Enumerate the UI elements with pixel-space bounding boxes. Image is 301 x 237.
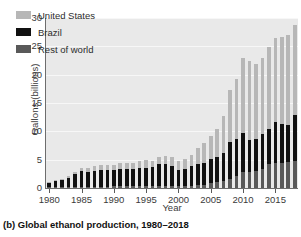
bar-segment-united-states: [286, 35, 290, 125]
bar-segment-brazil: [157, 164, 161, 186]
bar-segment-united-states: [144, 160, 148, 168]
bar-segment-brazil: [222, 153, 226, 181]
bar-segment-brazil: [228, 142, 232, 179]
bar-2018: [293, 25, 297, 188]
bar-segment-rest-of-world: [190, 186, 194, 188]
bar-segment-brazil: [170, 166, 174, 186]
bar-segment-brazil: [138, 168, 142, 186]
bar-segment-rest-of-world: [202, 185, 206, 188]
bar-segment-rest-of-world: [254, 171, 258, 188]
bar-segment-rest-of-world: [196, 185, 200, 188]
bar-segment-brazil: [190, 166, 194, 185]
bar-segment-rest-of-world: [131, 186, 135, 188]
bar-segment-united-states: [196, 148, 200, 164]
bar-segment-brazil: [183, 169, 187, 186]
x-tick-mark: [146, 189, 147, 193]
bar-2008: [228, 90, 232, 188]
bar-1984: [73, 172, 77, 188]
bar-1989: [106, 165, 110, 188]
bar-segment-united-states: [248, 61, 252, 140]
bar-segment-rest-of-world: [261, 169, 265, 188]
bar-segment-united-states: [261, 58, 265, 134]
bar-1995: [144, 160, 148, 188]
bar-segment-rest-of-world: [86, 187, 90, 188]
chart-area: Gallons (billions) 051015202530 19801985…: [0, 2, 301, 205]
bar-2014: [267, 47, 271, 188]
bar-2011: [248, 61, 252, 188]
bar-segment-rest-of-world: [241, 172, 245, 188]
bar-1997: [157, 157, 161, 188]
legend-item-brazil: Brazil: [16, 25, 156, 39]
bar-segment-rest-of-world: [144, 186, 148, 188]
bar-segment-brazil: [164, 164, 168, 186]
bar-segment-brazil: [293, 115, 297, 161]
x-tick-mark: [49, 189, 50, 193]
bar-segment-brazil: [286, 125, 290, 162]
x-tick-mark: [275, 189, 276, 193]
bar-segment-united-states: [280, 37, 284, 124]
bar-segment-united-states: [157, 157, 161, 164]
bar-segment-united-states: [235, 79, 239, 139]
bar-2005: [209, 136, 213, 188]
bar-2013: [261, 58, 265, 188]
legend-swatch-united-states: [16, 11, 31, 19]
x-tick-mark: [211, 189, 212, 193]
bar-segment-brazil: [118, 169, 122, 187]
bar-segment-rest-of-world: [112, 186, 116, 188]
bar-segment-rest-of-world: [80, 187, 84, 188]
bar-segment-rest-of-world: [170, 186, 174, 188]
legend-item-united-states: United States: [16, 8, 156, 22]
bar-2016: [280, 37, 284, 188]
bar-1996: [151, 161, 155, 188]
bar-segment-rest-of-world: [164, 186, 168, 188]
bar-segment-rest-of-world: [280, 163, 284, 189]
bar-segment-rest-of-world: [286, 162, 290, 188]
bar-segment-rest-of-world: [274, 163, 278, 189]
bar-segment-brazil: [202, 163, 206, 185]
bar-segment-united-states: [267, 47, 271, 128]
bar-1988: [99, 165, 103, 188]
bar-segment-brazil: [99, 170, 103, 187]
bar-2009: [235, 79, 239, 188]
x-axis-title: Year: [46, 202, 298, 213]
bar-1999: [170, 157, 174, 188]
bar-segment-united-states: [190, 155, 194, 167]
legend-label-rest-of-world: Rest of world: [38, 44, 93, 55]
bar-segment-rest-of-world: [157, 186, 161, 188]
bar-segment-brazil: [241, 133, 245, 172]
bar-1990: [112, 165, 116, 188]
legend-item-rest-of-world: Rest of world: [16, 42, 156, 56]
bar-segment-brazil: [267, 129, 271, 164]
bar-2010: [241, 58, 245, 188]
bar-segment-brazil: [280, 124, 284, 163]
bar-segment-brazil: [93, 171, 97, 187]
bar-segment-brazil: [274, 122, 278, 162]
bar-segment-brazil: [106, 170, 110, 187]
bar-segment-united-states: [254, 64, 258, 139]
bar-segment-rest-of-world: [67, 187, 71, 188]
bar-segment-brazil: [80, 171, 84, 187]
bar-2001: [183, 159, 187, 188]
bar-1986: [86, 168, 90, 188]
bar-segment-rest-of-world: [151, 186, 155, 188]
bar-segment-rest-of-world: [118, 186, 122, 188]
bar-segment-united-states: [241, 58, 245, 133]
y-tick-label: 10: [24, 127, 42, 137]
bar-segment-united-states: [202, 143, 206, 162]
bar-segment-rest-of-world: [209, 183, 213, 188]
bar-2006: [215, 129, 219, 188]
bar-1998: [164, 156, 168, 188]
bar-1980: [47, 182, 51, 188]
bar-segment-brazil: [67, 178, 71, 188]
y-tick-label: 5: [24, 155, 42, 165]
bar-segment-rest-of-world: [93, 187, 97, 188]
bar-1985: [80, 168, 84, 188]
bar-2007: [222, 116, 226, 188]
x-tick-mark: [82, 189, 83, 193]
legend-label-brazil: Brazil: [38, 27, 62, 38]
x-tick-mark: [114, 189, 115, 193]
bar-segment-united-states: [170, 157, 174, 166]
bar-1994: [138, 161, 142, 188]
bar-segment-united-states: [131, 163, 135, 170]
bar-segment-brazil: [248, 140, 252, 172]
